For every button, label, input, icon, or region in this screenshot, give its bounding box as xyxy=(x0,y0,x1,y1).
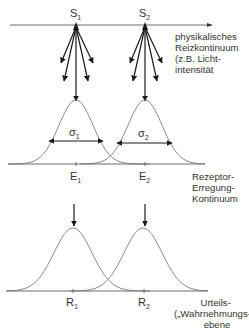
fan-arrow xyxy=(145,27,162,63)
arrow-fan-2 xyxy=(130,27,162,101)
excitation-axis-label: Rezeptor- Erregung- Kontinuum xyxy=(192,171,238,204)
fan-arrow xyxy=(76,27,88,81)
response-label-2: R2 xyxy=(138,296,150,310)
response-distribution-1 xyxy=(6,228,150,291)
stimulus-label-1: S1 xyxy=(70,7,81,21)
diagram: S1 S2 physikalisches Reizkontinuum (z.B.… xyxy=(0,0,249,334)
fan-arrow xyxy=(64,27,76,81)
arrow-fan-1 xyxy=(61,27,93,101)
response-distribution-2 xyxy=(70,228,208,291)
fan-arrow xyxy=(76,27,93,63)
response-label-1: R1 xyxy=(66,296,78,310)
fan-arrow xyxy=(145,27,157,81)
fan-arrow xyxy=(61,27,76,63)
fan-arrow xyxy=(133,27,145,81)
fan-arrow xyxy=(130,27,145,63)
excitation-label-2: E2 xyxy=(139,170,150,184)
sigma-label-2: σ2 xyxy=(138,127,149,141)
excitation-distribution-1 xyxy=(8,100,150,164)
stimulus-label-2: S2 xyxy=(139,7,150,21)
sigma-label-1: σ1 xyxy=(69,126,80,140)
excitation-label-1: E1 xyxy=(70,170,81,184)
response-axis-label: Urteils- („Wahrnehmungs-“) ebene xyxy=(174,297,249,330)
stimulus-axis-label: physikalisches Reizkontinuum (z.B. Licht… xyxy=(175,31,241,75)
